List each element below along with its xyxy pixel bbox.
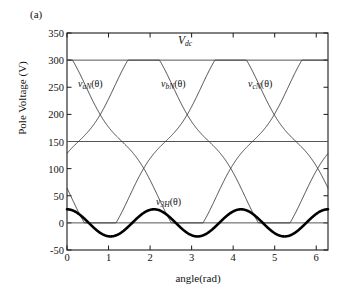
plot-svg — [0, 0, 350, 299]
figure-panel: (a) Pole Voltage (V) angle(rad) -5005010… — [0, 0, 350, 299]
